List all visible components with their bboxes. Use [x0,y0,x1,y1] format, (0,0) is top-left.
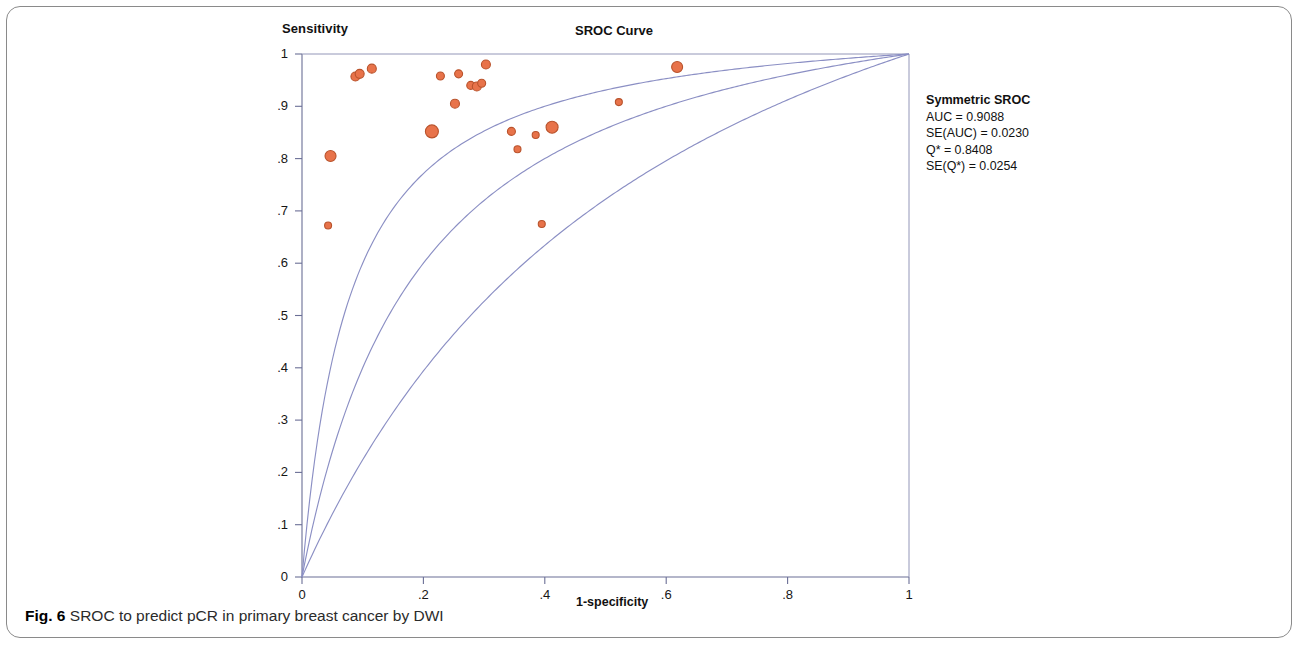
stats-q-star: Q* = 0.8408 [926,142,1030,159]
figure-caption: Fig. 6 SROC to predict pCR in primary br… [25,607,444,625]
y-tick-label: .1 [262,517,288,532]
stats-se-q-star: SE(Q*) = 0.0254 [926,158,1030,175]
scatter-point [355,69,364,78]
x-tick-label: 0 [287,587,317,602]
scatter-point [325,222,332,229]
figure-frame: Sensitivity SROC Curve 1-specificity 0.1… [6,6,1292,638]
x-axis-title: 1-specificity [576,595,648,609]
caption-text: SROC to predict pCR in primary breast ca… [70,607,444,624]
y-tick-label: .5 [262,308,288,323]
scatter-point [546,121,558,133]
y-tick-label: .6 [262,255,288,270]
scatter-point [532,132,539,139]
y-tick-label: .8 [262,151,288,166]
scatter-point [507,127,515,135]
y-tick-label: .4 [262,360,288,375]
x-tick-label: .2 [408,587,438,602]
y-tick-label: .9 [262,98,288,113]
scatter-point [478,79,486,87]
plot-canvas [7,7,1300,592]
y-tick-label: 1 [262,46,288,61]
stats-auc: AUC = 0.9088 [926,109,1030,126]
x-tick-label: .6 [651,587,681,602]
scatter-point [425,125,438,138]
scatter-point [325,150,336,161]
scatter-point [367,64,376,73]
y-tick-label: 0 [262,569,288,584]
scatter-point [514,146,521,153]
scatter-point [481,60,490,69]
x-tick-label: .8 [773,587,803,602]
scatter-point [436,72,444,80]
y-tick-label: .2 [262,464,288,479]
y-tick-label: .3 [262,412,288,427]
x-tick-label: .4 [530,587,560,602]
x-tick-label: 1 [894,587,924,602]
stats-se-auc: SE(AUC) = 0.0230 [926,125,1030,142]
scatter-point [672,62,683,73]
caption-label: Fig. 6 [25,607,65,624]
stats-title: Symmetric SROC [926,92,1030,109]
scatter-point [450,99,459,108]
sroc-chart: Sensitivity SROC Curve 1-specificity 0.1… [7,7,1300,592]
scatter-point [538,220,545,227]
statistics-legend: Symmetric SROC AUC = 0.9088 SE(AUC) = 0.… [926,92,1030,175]
scatter-point [455,70,463,78]
y-tick-label: .7 [262,203,288,218]
scatter-point [615,99,622,106]
